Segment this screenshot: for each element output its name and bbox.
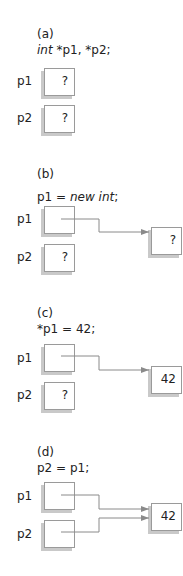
arrow-d-p2 — [61, 518, 149, 532]
arrow-c-p1 — [61, 356, 149, 370]
arrow-d-p1 — [61, 495, 149, 509]
arrow-b-p1 — [61, 219, 149, 232]
pointer-arrows — [0, 0, 183, 576]
